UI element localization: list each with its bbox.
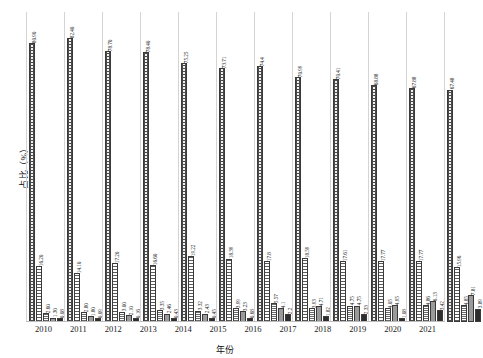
y-axis-title-wrapper: 占比（%） <box>0 160 14 174</box>
bar-2021-series4[interactable]: 7.81 <box>468 295 474 322</box>
x-axis-title: 年份 <box>0 343 449 356</box>
bar-2021-series3[interactable]: 4.85 <box>461 305 467 322</box>
bar-2013-series1[interactable]: 78.40 <box>143 52 149 322</box>
bar-slot: 1.08 <box>399 12 405 322</box>
bar-2021-series1[interactable]: 67.48 <box>447 90 453 322</box>
bar-slot: 3.32 <box>195 12 201 322</box>
bar-2015-series1[interactable]: 73.71 <box>219 68 225 322</box>
bar-2020-series3[interactable]: 4.86 <box>423 305 429 322</box>
bar-slot: 1.30 <box>50 12 56 322</box>
gridline <box>140 12 141 322</box>
bar-2019-series3[interactable]: 4.05 <box>385 308 391 322</box>
bar-slot: 2.46 <box>164 12 170 322</box>
bar-group-2018: 70.4117.614.754.752.33 <box>330 12 368 322</box>
gridline <box>368 12 369 322</box>
gridline <box>254 12 255 322</box>
bar-slot: 18.39 <box>226 12 232 322</box>
bar-2018-series2[interactable]: 17.61 <box>340 261 346 322</box>
bar-slot: 67.48 <box>447 12 453 322</box>
bar-2017-series4[interactable]: 4.71 <box>316 306 322 322</box>
bar-slot: 3.23 <box>240 12 246 322</box>
bar-2011-series2[interactable]: 14.10 <box>74 273 80 322</box>
bar-slot: 3.93 <box>309 12 315 322</box>
bar-slot: 70.99 <box>295 12 301 322</box>
bar-2010-series2[interactable]: 16.20 <box>36 266 42 322</box>
x-tick-2020: 2020 <box>375 324 410 338</box>
gridline <box>64 12 65 322</box>
bar-2013-series2[interactable]: 16.60 <box>150 265 156 322</box>
bar-slot: 80.90 <box>29 12 35 322</box>
bar-2018-series4[interactable]: 4.75 <box>354 306 360 322</box>
bar-slot: 78.70 <box>105 12 111 322</box>
bar-slot: 78.40 <box>143 12 149 322</box>
bar-slot: 7.81 <box>468 12 474 322</box>
bar-2011-series1[interactable]: 82.40 <box>67 38 73 322</box>
bar-2018-series1[interactable]: 70.41 <box>333 79 339 322</box>
bar-2010-series1[interactable]: 80.90 <box>29 43 35 322</box>
bar-group-2019: 68.8817.774.054.951.08 <box>368 12 406 322</box>
bar-slot: 4.71 <box>316 12 322 322</box>
bar-2019-series2[interactable]: 17.77 <box>378 261 384 322</box>
bar-slot: 18.59 <box>302 12 308 322</box>
x-tick-2013: 2013 <box>131 324 166 338</box>
bar-group-2016: 74.417.85.574.12.2 <box>254 12 292 322</box>
plot-area: 80.9016.202.601.300.0882.4014.102.801.80… <box>26 12 445 322</box>
bar-slot: 17.77 <box>416 12 422 322</box>
bar-2017-series1[interactable]: 70.99 <box>295 77 301 322</box>
bar-2016-series3[interactable]: 5.57 <box>271 303 277 322</box>
bar-group-2017: 70.9918.593.934.711.82 <box>292 12 330 322</box>
gridline <box>292 12 293 322</box>
x-tick-2019: 2019 <box>340 324 375 338</box>
bar-2012-series2[interactable]: 17.20 <box>112 263 118 322</box>
gridline <box>26 12 27 322</box>
bar-slot: 2.80 <box>81 12 87 322</box>
bar-2012-series1[interactable]: 78.70 <box>105 51 111 322</box>
gridline <box>216 12 217 322</box>
bar-2015-series2[interactable]: 18.39 <box>226 259 232 322</box>
bar-2015-series3[interactable]: 3.99 <box>233 308 239 322</box>
bar-group-2013: 78.4016.603.352.460.43 <box>140 12 178 322</box>
bar-slot: 3.42 <box>437 12 443 322</box>
bar-2018-series3[interactable]: 4.75 <box>347 306 353 322</box>
bar-slot: 17.8 <box>264 12 270 322</box>
bar-2017-series3[interactable]: 3.93 <box>309 308 315 322</box>
x-tick-2015: 2015 <box>201 324 236 338</box>
bar-2016-series1[interactable]: 74.4 <box>257 66 263 322</box>
x-tick-2018: 2018 <box>305 324 340 338</box>
bar-2020-series2[interactable]: 17.77 <box>416 261 422 322</box>
gridline <box>406 12 407 322</box>
bar-slot: 3.35 <box>157 12 163 322</box>
bar-2014-series1[interactable]: 75.25 <box>181 63 187 322</box>
x-tick-2012: 2012 <box>96 324 131 338</box>
gridline <box>444 12 445 322</box>
bar-2020-series1[interactable]: 67.88 <box>409 88 415 322</box>
bar-group-2020: 67.8817.774.866.133.42 <box>406 12 444 322</box>
bar-slot: 4.1 <box>278 12 284 322</box>
bar-group-2012: 78.7017.203.002.100.16 <box>102 12 140 322</box>
bar-2021-series5[interactable]: 3.89 <box>475 309 481 322</box>
bar-slot: 17.77 <box>378 12 384 322</box>
bar-2014-series2[interactable]: 19.22 <box>188 256 194 322</box>
bar-slot: 1.80 <box>88 12 94 322</box>
bar-slot: 0.43 <box>171 12 177 322</box>
bar-2017-series2[interactable]: 18.59 <box>302 258 308 322</box>
gridline <box>330 12 331 322</box>
bar-slot: 3.99 <box>233 12 239 322</box>
bar-slot: 0.09 <box>95 12 101 322</box>
bar-group-2010: 80.9016.202.601.300.08 <box>26 12 64 322</box>
x-axis-tick-labels: 2010201120122013201420152016201720182019… <box>26 324 445 338</box>
bar-2016-series4[interactable]: 4.1 <box>278 308 284 322</box>
bar-2019-series1[interactable]: 68.88 <box>371 85 377 322</box>
bar-2020-series4[interactable]: 6.13 <box>430 301 436 322</box>
bar-slot: 3.00 <box>119 12 125 322</box>
bar-group-2021: 67.4815.964.857.813.89 <box>444 12 482 322</box>
bar-slot: 67.88 <box>409 12 415 322</box>
bar-2019-series4[interactable]: 4.95 <box>392 305 398 322</box>
bar-slot: 75.25 <box>181 12 187 322</box>
bar-2016-series2[interactable]: 17.8 <box>264 261 270 322</box>
bar-slot: 4.75 <box>354 12 360 322</box>
x-tick-2021: 2021 <box>410 324 445 338</box>
bar-2021-series2[interactable]: 15.96 <box>454 267 460 322</box>
bar-slot: 73.71 <box>219 12 225 322</box>
